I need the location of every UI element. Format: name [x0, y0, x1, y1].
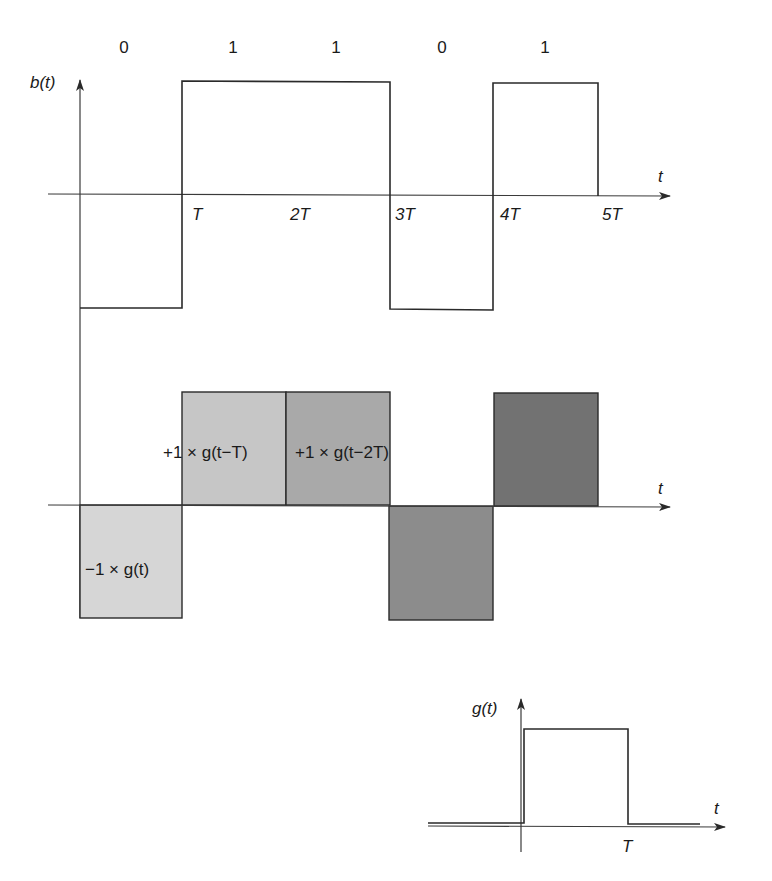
tick-5T: 5T: [602, 205, 623, 224]
pulse-pos-g-t-minus-4T: [494, 393, 598, 506]
y-axis-label: g(t): [472, 699, 498, 718]
pulse-neg-g-t-minus-3T: [389, 506, 493, 620]
x-axis-label: t: [658, 167, 664, 186]
tick-T: T: [622, 837, 634, 856]
bit-label-0: 0: [119, 38, 128, 57]
bit-label-1: 1: [228, 38, 237, 57]
tick-4T: 4T: [500, 205, 521, 224]
y-axis-label: b(t): [30, 73, 56, 92]
pulse-label-0: −1 × g(t): [85, 560, 149, 579]
g-of-t-pulse: [428, 729, 700, 824]
x-axis-label: t: [658, 479, 664, 498]
middle-panel-pulse-sum: t −1 × g(t) +1 × g(t−T) +1 × g(t−2T): [48, 392, 670, 620]
tick-3T: 3T: [395, 205, 416, 224]
bottom-panel-g-of-t: g(t) t T: [428, 699, 725, 856]
x-axis: [48, 194, 670, 196]
x-axis: [428, 826, 725, 827]
tick-2T: 2T: [289, 205, 311, 224]
x-axis-label: t: [714, 799, 720, 818]
pulse-label-1: +1 × g(t−T): [163, 443, 248, 462]
tick-T: T: [192, 205, 204, 224]
bit-labels: 0 1 1 0 1: [119, 38, 549, 57]
bit-label-3: 0: [437, 38, 446, 57]
bit-label-2: 1: [331, 38, 340, 57]
pulse-label-2: +1 × g(t−2T): [295, 443, 389, 462]
bit-label-4: 1: [540, 38, 549, 57]
bpsk-waveform-diagram: 0 1 1 0 1 b(t) t T 2T 3T 4T 5T t −1 × g(…: [0, 0, 772, 881]
